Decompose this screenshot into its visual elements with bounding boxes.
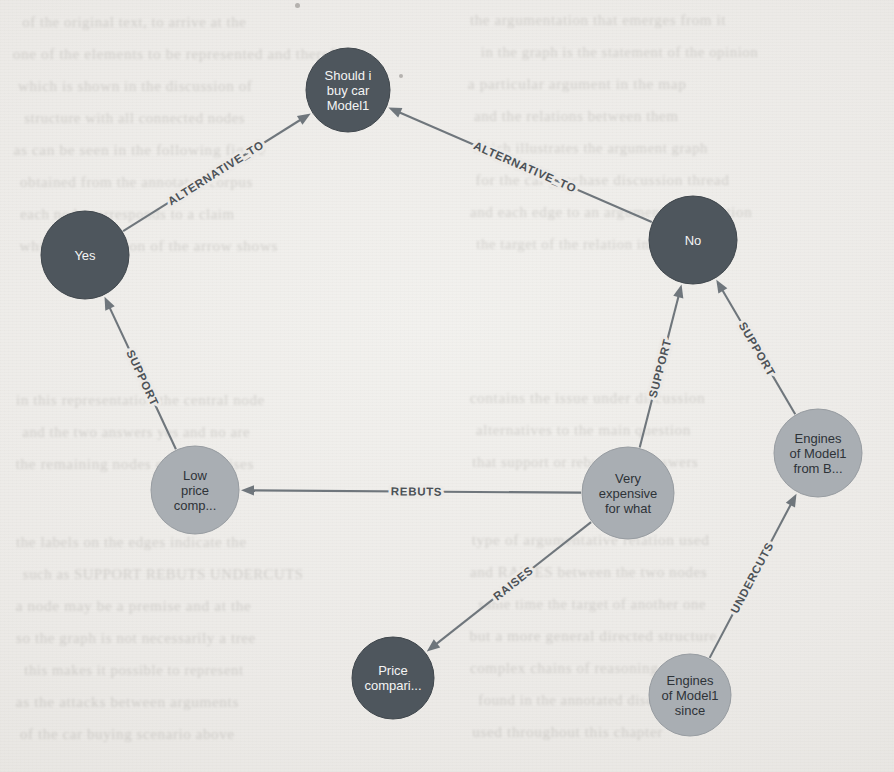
node-label-line: comp... — [174, 498, 217, 513]
graph-edge[interactable]: RAISESRAISES — [427, 522, 591, 651]
node-label-line: Should i — [325, 68, 372, 83]
node-label-line: price — [181, 483, 209, 498]
graph-svg: ALTERNATIVE_TOALTERNATIVE_TOALTERNATIVE_… — [0, 0, 894, 772]
node-label-line: Model1 — [327, 98, 370, 113]
edge-label: SUPPORT — [737, 320, 778, 378]
node-label-line: Yes — [74, 248, 96, 263]
graph-edge[interactable]: REBUTSREBUTS — [241, 485, 581, 498]
graph-node[interactable]: Yes — [41, 211, 129, 299]
graph-edge[interactable]: SUPPORTSUPPORT — [716, 280, 795, 415]
edge-label: UNDERCUTS — [728, 540, 775, 615]
node-label-line: compari... — [364, 678, 421, 693]
node-label-line: of Model1 — [661, 688, 718, 703]
graph-edge[interactable]: ALTERNATIVE_TOALTERNATIVE_TO — [388, 108, 651, 223]
node-label-line: No — [685, 233, 702, 248]
edge-arrowhead — [716, 280, 727, 294]
edge-label: ALTERNATIVE_TO — [166, 138, 266, 207]
edge-arrowhead — [297, 113, 311, 124]
edge-label: SUPPORT — [124, 348, 161, 408]
graph-node[interactable]: No — [649, 196, 737, 284]
node-label-line: Price — [378, 663, 408, 678]
node-label-line: Very — [615, 471, 642, 486]
graph-edge[interactable]: SUPPORTSUPPORT — [640, 285, 684, 448]
edge-layer: ALTERNATIVE_TOALTERNATIVE_TOALTERNATIVE_… — [105, 108, 797, 658]
node-label-line: Engines — [667, 673, 714, 688]
edge-arrowhead — [105, 297, 115, 311]
graph-node[interactable]: Veryexpensivefor what — [582, 447, 674, 539]
edge-label: ALTERNATIVE_TO — [472, 139, 578, 194]
graph-node[interactable]: Enginesof Model1since — [649, 654, 731, 736]
argument-graph-canvas: of the original text, to arrive at theth… — [0, 0, 894, 772]
edge-arrowhead — [388, 108, 402, 118]
graph-node[interactable]: Should ibuy carModel1 — [306, 48, 390, 132]
graph-node[interactable]: Enginesof Model1from B... — [774, 409, 862, 497]
edge-label: REBUTS — [391, 485, 443, 497]
graph-edge[interactable]: ALTERNATIVE_TOALTERNATIVE_TO — [123, 113, 311, 231]
node-label-line: of Model1 — [789, 446, 846, 461]
node-label-line: expensive — [599, 486, 658, 501]
node-label-line: since — [675, 703, 705, 718]
node-label-line: Low — [183, 468, 207, 483]
node-label-line: for what — [605, 501, 652, 516]
node-label-line: buy car — [327, 83, 370, 98]
edge-arrowhead — [673, 285, 683, 299]
graph-edge[interactable]: UNDERCUTSUNDERCUTS — [710, 494, 797, 658]
edge-arrowhead — [786, 494, 797, 508]
graph-node[interactable]: Pricecompari... — [352, 637, 434, 719]
graph-edge[interactable]: SUPPORTSUPPORT — [105, 297, 176, 450]
node-label-line: Engines — [795, 431, 842, 446]
edge-arrowhead — [241, 485, 254, 495]
edge-label: RAISES — [491, 564, 535, 603]
edge-label: SUPPORT — [647, 338, 674, 400]
node-label-line: from B... — [793, 461, 842, 476]
graph-node[interactable]: Lowpricecomp... — [151, 446, 239, 534]
